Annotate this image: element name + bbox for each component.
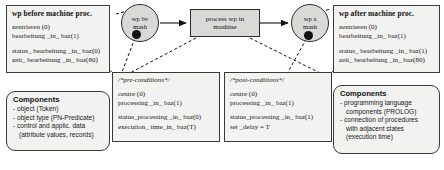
components-box-right-item-2: components (PROLOG) bbox=[340, 108, 435, 117]
petri-net-diagram: wp before machine proc. zentrieren (0) b… bbox=[0, 0, 444, 170]
state-box-after: wp after machine proc. zentrieren (0) be… bbox=[333, 5, 440, 73]
place-wp-after-machine-label-2: mash bbox=[303, 23, 317, 31]
preconditions-line-3: status_processing _in_ baz(0) bbox=[118, 113, 215, 122]
components-box-left-item-3: - control and applic. data bbox=[13, 122, 105, 131]
preconditions-line-2: processing _in_ baz(1) bbox=[118, 99, 215, 108]
components-box-right-title: Components bbox=[340, 89, 435, 99]
state-box-before-title: wp before machine proc. bbox=[12, 9, 105, 19]
token-after-machine bbox=[304, 31, 313, 40]
state-box-before-line-1: zentrieren (0) bbox=[12, 23, 105, 32]
postconditions-line-2: processing _in_ baz(1) bbox=[230, 99, 327, 108]
state-box-after-title: wp after machine proc. bbox=[339, 9, 435, 19]
components-box-right: Components - programming language compon… bbox=[333, 85, 440, 154]
transition-process-wp: process wp in mashine bbox=[190, 9, 260, 37]
state-box-before-line-2: bearbeitung _in_ baz(1) bbox=[12, 32, 105, 41]
place-wp-before-machine-label-1: wp bv bbox=[132, 15, 148, 23]
state-box-before-line-4: zeit_ bearbeitung _in_ baz(80) bbox=[12, 56, 105, 65]
components-box-right-item-5: (execution time) bbox=[340, 133, 435, 142]
postconditions-line-3: status_processing _in_ baz(1) bbox=[230, 113, 327, 122]
state-box-after-line-1: zentrieren (0) bbox=[339, 23, 435, 32]
transition-label-1: process wp in bbox=[206, 15, 245, 23]
preconditions-title: /*pre-conditions*/ bbox=[118, 76, 215, 86]
state-box-before-line-3: status_ bearbeitung _in_ baz(0) bbox=[12, 47, 105, 56]
place-wp-after-machine-label-1: wp a bbox=[304, 15, 317, 23]
components-box-left: Components - object (Token) - object typ… bbox=[6, 91, 110, 151]
preconditions-box: /*pre-conditions*/ centre (0) processing… bbox=[112, 72, 220, 142]
postconditions-box: /*post-conditions*/ centre (0) processin… bbox=[224, 72, 332, 142]
state-box-before: wp before machine proc. zentrieren (0) b… bbox=[6, 5, 110, 73]
components-box-left-title: Components bbox=[13, 95, 105, 105]
state-box-after-line-2: bearbeitung _in_ baz(1) bbox=[339, 32, 435, 41]
components-box-right-item-1: - programming language bbox=[340, 99, 435, 108]
state-box-after-line-3: status_ bearbeitung _in_ baz(1) bbox=[339, 47, 435, 56]
components-box-right-item-4: with adjacent states bbox=[340, 125, 435, 134]
transition-label-2: mashine bbox=[213, 23, 236, 31]
postconditions-line-1: centre (0) bbox=[230, 90, 327, 99]
components-box-left-item-2: - object type (PN-Predicate) bbox=[13, 114, 105, 123]
postconditions-title: /*post-conditions*/ bbox=[230, 76, 327, 86]
state-box-after-line-4: zeit_ bearbeitung _in_ baz(80) bbox=[339, 56, 435, 65]
token-before-machine bbox=[132, 30, 141, 39]
preconditions-line-1: centre (0) bbox=[118, 90, 215, 99]
preconditions-line-4: execution_ time_in_ baz(T) bbox=[118, 123, 215, 132]
components-box-left-item-4: (attribute values, records) bbox=[13, 131, 105, 140]
components-box-right-item-3: - connection of procedures bbox=[340, 116, 435, 125]
components-box-left-item-1: - object (Token) bbox=[13, 105, 105, 114]
postconditions-line-4: set _delay = T bbox=[230, 123, 327, 132]
